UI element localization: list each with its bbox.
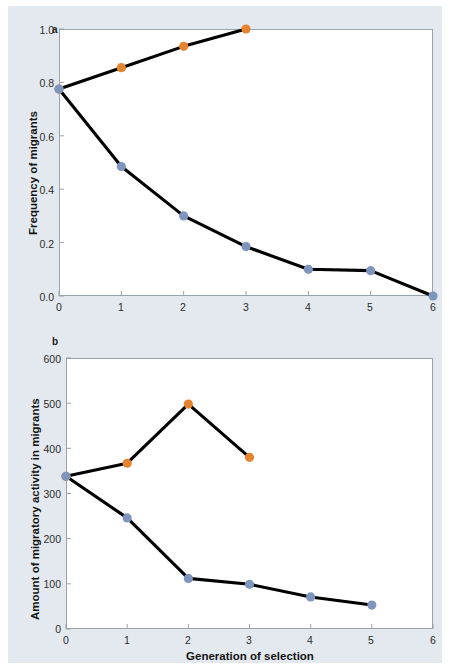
series-line-1 [59, 89, 433, 296]
data-point-marker [367, 600, 376, 609]
data-point-marker [123, 513, 132, 522]
series-line-1 [66, 476, 372, 605]
data-point-marker [304, 265, 313, 274]
figure-root: a Frequency of migrants 1.0 0.8 0.6 0.4 … [0, 0, 450, 669]
data-point-marker [245, 580, 254, 589]
panel-b: b Amount of migratory activity in migran… [0, 320, 450, 669]
data-point-marker [245, 453, 254, 462]
data-point-marker [179, 211, 188, 220]
panel-a: a Frequency of migrants 1.0 0.8 0.6 0.4 … [0, 0, 450, 320]
data-point-marker [184, 574, 193, 583]
data-point-marker [117, 162, 126, 171]
data-point-marker [241, 242, 250, 251]
data-point-marker [241, 24, 250, 33]
data-point-marker [306, 592, 315, 601]
data-point-marker [61, 472, 70, 481]
panel-a-canvas [0, 0, 450, 320]
data-point-marker [117, 63, 126, 72]
data-point-marker [54, 84, 63, 93]
data-point-marker [184, 399, 193, 408]
panel-b-canvas [0, 320, 450, 669]
series-line-0 [66, 404, 250, 476]
data-point-marker [179, 42, 188, 51]
series-line-0 [59, 29, 246, 89]
data-point-marker [123, 459, 132, 468]
data-point-marker [428, 291, 437, 300]
data-point-marker [366, 266, 375, 275]
